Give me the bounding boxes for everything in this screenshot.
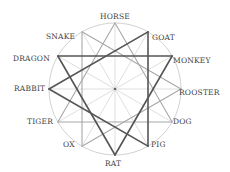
label-snake: SNAKE [46, 33, 75, 41]
label-rat: RAT [105, 160, 121, 168]
label-pig: PIG [151, 141, 166, 149]
label-rooster: ROOSTER [179, 89, 220, 97]
label-monkey: MONKEY [173, 57, 211, 65]
center-dot [114, 88, 117, 91]
dark-trine-lines [49, 32, 172, 155]
trine-line-rooster-ox [82, 89, 181, 146]
label-ox: OX [63, 141, 75, 149]
label-goat: GOAT [152, 34, 175, 42]
label-dog: DOG [173, 118, 192, 126]
label-tiger: TIGER [27, 118, 53, 126]
label-dragon: DRAGON [13, 55, 50, 63]
label-rabbit: RABBIT [14, 85, 45, 93]
label-horse: HORSE [100, 13, 130, 21]
trine-line-pig-rabbit [49, 89, 148, 146]
